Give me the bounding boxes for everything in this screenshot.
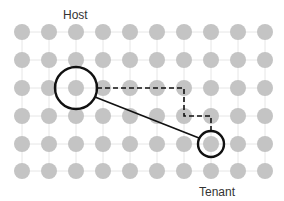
- grid-node: [176, 136, 192, 152]
- grid-node: [68, 136, 84, 152]
- grid-node: [257, 24, 273, 40]
- grid-node: [68, 163, 84, 179]
- grid-node: [149, 163, 165, 179]
- grid-node: [122, 52, 138, 68]
- grid-node: [230, 52, 246, 68]
- grid-node: [176, 24, 192, 40]
- grid-node: [68, 52, 84, 68]
- grid-node: [230, 80, 246, 96]
- tenant-label: Tenant: [199, 185, 236, 199]
- grid-node: [68, 108, 84, 124]
- grid-node: [203, 80, 219, 96]
- grid-node: [149, 52, 165, 68]
- grid-node: [14, 163, 30, 179]
- grid-node: [149, 24, 165, 40]
- grid-node: [176, 163, 192, 179]
- grid-node: [41, 136, 57, 152]
- grid-node: [203, 24, 219, 40]
- grid-node: [230, 108, 246, 124]
- grid-node: [14, 52, 30, 68]
- grid-node: [41, 163, 57, 179]
- grid-node: [203, 136, 219, 152]
- grid-node: [122, 163, 138, 179]
- grid-node: [41, 108, 57, 124]
- grid-node: [68, 24, 84, 40]
- grid-node: [230, 163, 246, 179]
- grid-node: [176, 52, 192, 68]
- grid-node: [257, 52, 273, 68]
- grid-node: [14, 80, 30, 96]
- grid-node: [203, 52, 219, 68]
- grid-node: [41, 52, 57, 68]
- grid-node: [257, 108, 273, 124]
- host-label: Host: [63, 8, 88, 22]
- grid-node: [95, 108, 111, 124]
- grid-node: [203, 163, 219, 179]
- grid-node: [149, 136, 165, 152]
- grid-node: [41, 24, 57, 40]
- grid-node: [230, 24, 246, 40]
- grid-node: [257, 163, 273, 179]
- grid-nodes: [14, 24, 273, 179]
- grid-node: [122, 136, 138, 152]
- grid-node: [122, 24, 138, 40]
- grid-node: [230, 136, 246, 152]
- grid-node: [95, 52, 111, 68]
- grid-node: [95, 163, 111, 179]
- grid-node: [14, 24, 30, 40]
- grid-node: [257, 136, 273, 152]
- host-tenant-diagram: Host Tenant: [0, 0, 284, 201]
- grid-node: [14, 136, 30, 152]
- grid-node: [14, 108, 30, 124]
- grid-node: [95, 24, 111, 40]
- grid-node: [68, 80, 84, 96]
- grid-node: [95, 136, 111, 152]
- grid-node: [257, 80, 273, 96]
